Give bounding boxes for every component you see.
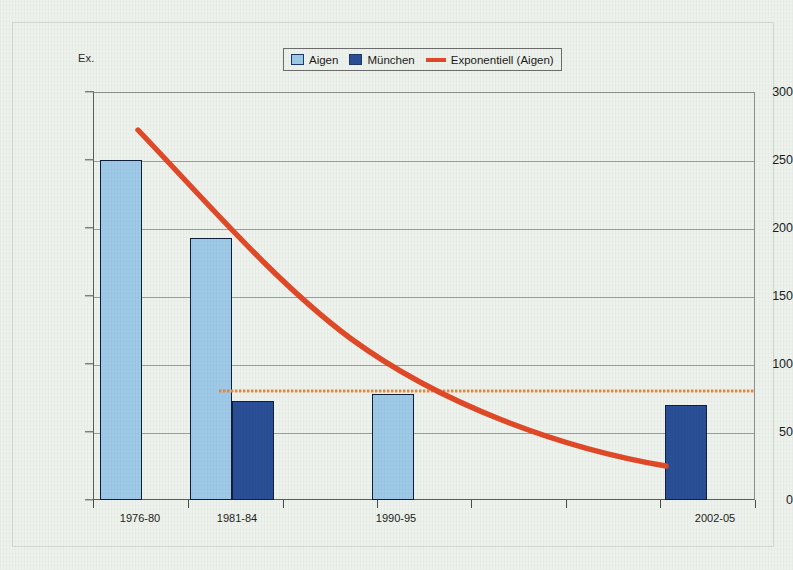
legend-item-exponentiell: Exponentiell (Aigen) (426, 54, 554, 66)
x-tick-mark-2 (283, 500, 284, 508)
legend-swatch-aigen-icon (291, 54, 304, 65)
y-tick-label-150: 150 (749, 289, 793, 303)
legend-label-exponentiell: Exponentiell (Aigen) (451, 54, 554, 66)
x-tick-label-1990-95: 1990-95 (376, 512, 416, 524)
y-tick-label-200: 200 (749, 221, 793, 235)
legend-swatch-muenchen-icon (349, 54, 362, 65)
legend-line-exponentiell-icon (426, 58, 446, 62)
y-tick-label-300: 300 (749, 85, 793, 99)
x-tick-mark-7 (755, 500, 756, 508)
chart-page: Ex. Aigen München Exponentiell (Aigen) 3… (0, 0, 793, 570)
y-tick-label-100: 100 (749, 357, 793, 371)
x-tick-mark-4 (471, 500, 472, 508)
legend-item-muenchen: München (349, 54, 414, 66)
x-tick-label-1976-80: 1976-80 (120, 512, 160, 524)
bar-aigen-1981-84 (190, 238, 232, 501)
legend-label-aigen: Aigen (309, 54, 338, 66)
x-tick-mark-5 (566, 500, 567, 508)
gridline-200 (94, 229, 754, 230)
x-tick-mark-3 (377, 500, 378, 508)
y-tick-label-50: 50 (749, 425, 793, 439)
x-tick-label-1981-84: 1981-84 (217, 512, 257, 524)
bar-muenchen-1981-84 (232, 401, 274, 500)
legend-label-muenchen: München (367, 54, 414, 66)
bar-muenchen-2002-05 (665, 405, 707, 500)
chart-legend: Aigen München Exponentiell (Aigen) (283, 48, 562, 71)
x-tick-label-2002-05: 2002-05 (695, 512, 735, 524)
bar-aigen-1990-95 (372, 394, 414, 500)
x-tick-mark-0 (93, 500, 94, 508)
y-axis-title: Ex. (78, 52, 95, 64)
x-tick-mark-6 (660, 500, 661, 508)
legend-item-aigen: Aigen (291, 54, 338, 66)
y-tick-label-250: 250 (749, 153, 793, 167)
gridline-250 (94, 161, 754, 162)
bar-aigen-1976-80 (100, 160, 142, 500)
x-tick-mark-1 (188, 500, 189, 508)
